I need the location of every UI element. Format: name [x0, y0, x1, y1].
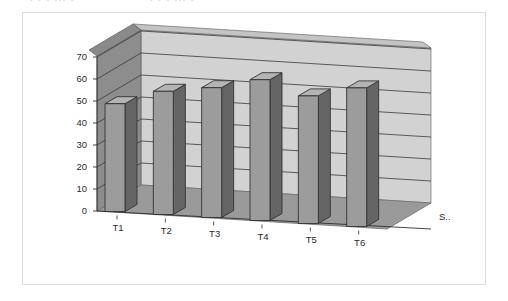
chart-3d-column — [0, 0, 508, 301]
x-axis-tick-label-T4: T4 — [252, 231, 274, 242]
y-axis-tick-label-50: 50 — [65, 95, 87, 106]
y-axis-tick-label-0: 0 — [65, 205, 87, 216]
y-axis-tick-label-60: 60 — [65, 73, 87, 84]
bar-front-face-T3 — [202, 88, 222, 218]
bar-T2 — [153, 84, 185, 214]
y-axis-tick-label-30: 30 — [65, 139, 87, 150]
bar-side-face-T2 — [173, 84, 185, 214]
bar-side-face-T1 — [125, 97, 137, 212]
x-axis-tick-label-T5: T5 — [300, 234, 322, 245]
y-axis-tick-label-20: 20 — [65, 161, 87, 172]
y-axis-tick-label-40: 40 — [65, 117, 87, 128]
chart-canvas — [0, 0, 508, 301]
bar-side-face-T3 — [222, 81, 234, 218]
bar-T1 — [105, 97, 137, 212]
bar-T5 — [298, 89, 330, 224]
x-axis-tick-label-T6: T6 — [349, 237, 371, 248]
bar-front-face-T2 — [153, 91, 173, 214]
y-axis-tick-label-10: 10 — [65, 183, 87, 194]
x-axis-tick-label-T3: T3 — [204, 228, 226, 239]
bar-front-face-T6 — [347, 88, 367, 227]
y-axis-tick-label-70: 70 — [65, 51, 87, 62]
bar-T4 — [250, 73, 282, 221]
bar-T3 — [202, 81, 234, 218]
x-axis-tick-label-T1: T1 — [107, 222, 129, 233]
bar-T6 — [347, 81, 379, 227]
series-axis-label: S.. — [439, 211, 451, 222]
bar-front-face-T1 — [105, 104, 125, 212]
x-axis-tick-label-T2: T2 — [155, 225, 177, 236]
bar-front-face-T4 — [250, 80, 270, 221]
bar-side-face-T5 — [318, 89, 330, 224]
bar-side-face-T4 — [270, 73, 282, 221]
bar-front-face-T5 — [298, 96, 318, 224]
bar-side-face-T6 — [367, 81, 379, 227]
